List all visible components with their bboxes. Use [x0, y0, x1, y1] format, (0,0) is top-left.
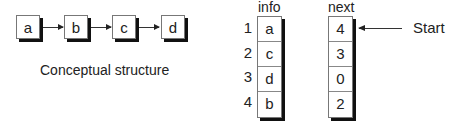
next-cell: 4: [329, 17, 352, 42]
node-c: c: [112, 15, 136, 39]
index-2: 2: [240, 44, 252, 61]
info-cell: b: [258, 92, 281, 117]
index-1: 1: [240, 19, 252, 36]
info-header: info: [258, 0, 281, 15]
node-a: a: [16, 15, 40, 39]
info-cell: c: [258, 42, 281, 67]
next-column: 4 3 0 2: [328, 16, 353, 118]
info-cell: d: [258, 67, 281, 92]
arrow-a-b: [43, 27, 63, 28]
node-b: b: [64, 15, 88, 39]
info-column: a c d b: [257, 16, 282, 118]
index-4: 4: [240, 93, 252, 110]
arrow-b-c: [91, 27, 111, 28]
next-header: next: [328, 0, 354, 15]
start-arrow-icon: [359, 28, 402, 29]
index-3: 3: [240, 68, 252, 85]
next-cell: 0: [329, 67, 352, 92]
start-label: Start: [413, 19, 445, 36]
caption: Conceptual structure: [40, 62, 169, 78]
arrow-c-d: [139, 27, 159, 28]
info-cell: a: [258, 17, 281, 42]
node-d: d: [161, 15, 185, 39]
next-cell: 2: [329, 92, 352, 117]
next-cell: 3: [329, 42, 352, 67]
